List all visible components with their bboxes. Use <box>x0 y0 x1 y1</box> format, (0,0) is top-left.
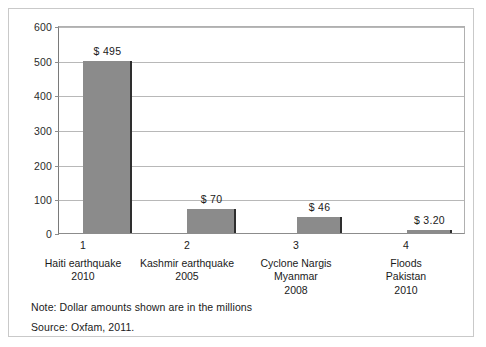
ytick-mark-500 <box>55 62 59 63</box>
bar-slot-3: $ 46 <box>297 27 342 233</box>
category-line-4c: 2010 <box>336 284 476 298</box>
bar-floods-pakistan[interactable] <box>407 230 452 233</box>
bar-slot-2: $ 70 <box>187 27 236 233</box>
ytick-label-500: 500 <box>34 56 52 68</box>
ytick-label-400: 400 <box>34 90 52 102</box>
category-line-4b: Pakistan <box>336 270 476 284</box>
bar-value-label-2: $ 70 <box>201 193 223 205</box>
category-line-4a: Floods <box>336 257 476 271</box>
ytick-mark-600 <box>55 27 59 28</box>
ytick-label-200: 200 <box>34 160 52 172</box>
bar-cyclone-nargis[interactable] <box>297 217 342 233</box>
bar-slot-1: $ 495 <box>83 27 132 233</box>
bar-slot-4: $ 3.20 <box>407 27 452 233</box>
bar-value-label-4: $ 3.20 <box>414 214 445 226</box>
xaxis-label-4: 4 Floods Pakistan 2010 <box>336 239 476 297</box>
chart-source: Source: Oxfam, 2011. <box>31 321 134 333</box>
bar-kashmir-earthquake[interactable] <box>187 209 236 233</box>
ytick-mark-400 <box>55 96 59 97</box>
ytick-mark-200 <box>55 166 59 167</box>
bar-haiti-earthquake[interactable] <box>83 61 132 233</box>
ytick-label-600: 600 <box>34 21 52 33</box>
ytick-mark-300 <box>55 131 59 132</box>
ytick-label-100: 100 <box>34 194 52 206</box>
chart-figure: 600 500 400 300 200 100 0 $ 495 <box>8 8 474 337</box>
ytick-mark-100 <box>55 200 59 201</box>
plot-area: 600 500 400 300 200 100 0 $ 495 <box>58 26 465 234</box>
ytick-label-300: 300 <box>34 125 52 137</box>
bar-value-label-1: $ 495 <box>94 45 122 57</box>
ytick-mark-0 <box>55 234 59 235</box>
gridline-0: 0 <box>59 234 464 235</box>
chart-note: Note: Dollar amounts shown are in the mi… <box>31 301 252 313</box>
bar-value-label-3: $ 46 <box>309 201 331 213</box>
xtick-number-4: 4 <box>336 239 476 253</box>
